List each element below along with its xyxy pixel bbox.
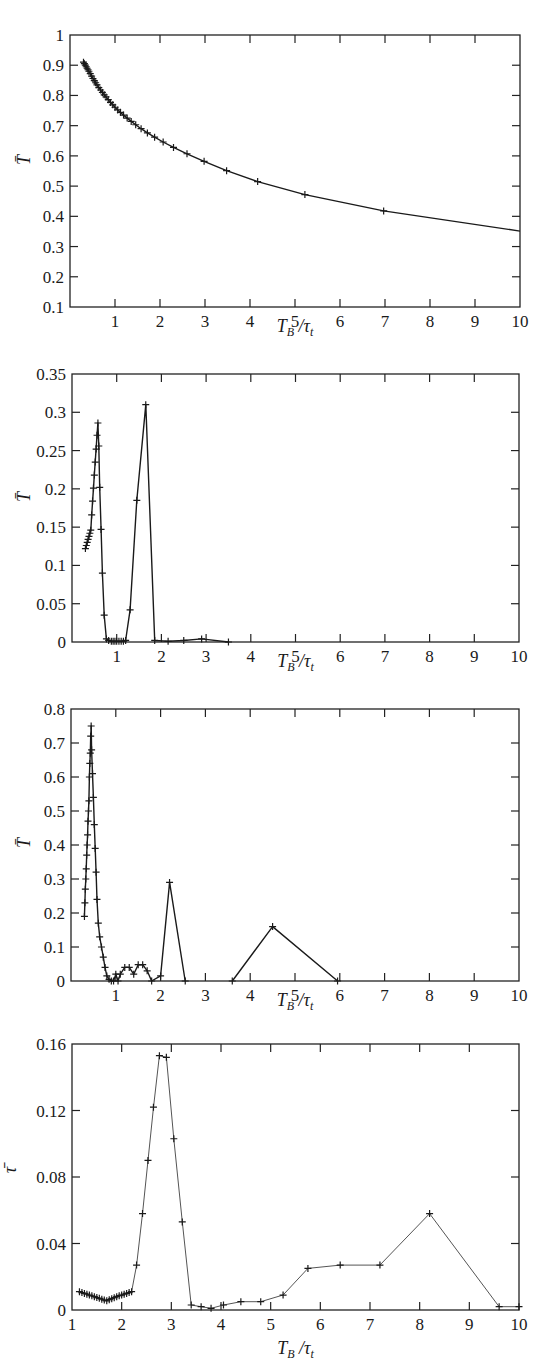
plus-marker bbox=[88, 746, 95, 753]
x-tick-label: 9 bbox=[470, 647, 479, 666]
plus-marker bbox=[86, 530, 93, 537]
x-tick-label: 6 bbox=[316, 1315, 325, 1334]
plot-frame bbox=[72, 374, 519, 642]
y-tick-label: 0.12 bbox=[36, 1102, 66, 1121]
plus-marker bbox=[87, 527, 94, 534]
chart-panel-1: 123456789100.10.20.30.40.50.60.70.80.91T… bbox=[14, 26, 529, 339]
y-tick-label: 0 bbox=[58, 1301, 67, 1320]
plus-marker bbox=[82, 545, 89, 552]
x-tick-label: 2 bbox=[157, 647, 166, 666]
y-tick-label: 0 bbox=[58, 633, 67, 652]
y-tick-label: 0.15 bbox=[36, 518, 66, 537]
y-tick-label: 0.16 bbox=[36, 1035, 66, 1054]
plus-marker bbox=[84, 831, 91, 838]
x-axis-label: TB /τt bbox=[277, 1338, 314, 1361]
y-tick-label: 0.2 bbox=[45, 480, 66, 499]
x-tick-label: 1 bbox=[112, 986, 121, 1005]
plus-marker bbox=[163, 1054, 170, 1061]
plus-marker bbox=[96, 484, 103, 491]
chart-panel-3: 1234567891000.10.20.30.40.50.60.70.8TB /… bbox=[14, 700, 528, 1013]
plus-marker bbox=[93, 869, 100, 876]
plus-marker bbox=[301, 191, 308, 198]
y-tick-label: 1 bbox=[56, 26, 65, 45]
plus-marker bbox=[99, 570, 106, 577]
x-tick-label: 2 bbox=[156, 986, 165, 1005]
y-tick-label: 0.6 bbox=[43, 147, 64, 166]
y-tick-label: 0.5 bbox=[43, 177, 64, 196]
plus-marker bbox=[151, 637, 158, 644]
plus-marker bbox=[126, 964, 133, 971]
data-line bbox=[85, 405, 228, 642]
plus-marker bbox=[87, 750, 94, 757]
plus-marker bbox=[170, 1135, 177, 1142]
y-tick-label: 0.05 bbox=[36, 595, 66, 614]
plus-marker bbox=[94, 432, 101, 439]
plus-marker bbox=[133, 497, 140, 504]
x-tick-label: 8 bbox=[425, 647, 434, 666]
plus-marker bbox=[160, 138, 167, 145]
x-tick-label: 9 bbox=[470, 986, 479, 1005]
x-tick-label: 6 bbox=[336, 647, 345, 666]
plus-marker bbox=[83, 852, 90, 859]
plus-marker bbox=[95, 920, 102, 927]
x-tick-label: 4 bbox=[247, 647, 256, 666]
y-axis-label: τ̄ bbox=[0, 1162, 20, 1173]
y-tick-label: 0.25 bbox=[36, 442, 66, 461]
plus-marker bbox=[89, 498, 96, 505]
y-tick-label: 0.8 bbox=[43, 86, 64, 105]
plus-marker bbox=[98, 944, 105, 951]
y-tick-label: 0.1 bbox=[45, 556, 66, 575]
x-tick-label: 9 bbox=[471, 312, 480, 331]
y-tick-label: 0.8 bbox=[44, 700, 65, 719]
plus-marker bbox=[82, 876, 89, 883]
y-tick-label: 0.1 bbox=[44, 938, 65, 957]
plus-marker bbox=[84, 539, 91, 546]
x-tick-label: 1 bbox=[68, 1315, 77, 1334]
data-line bbox=[84, 726, 185, 981]
x-tick-label: 6 bbox=[336, 986, 345, 1005]
x-tick-label: 8 bbox=[426, 312, 435, 331]
plus-marker bbox=[85, 533, 92, 540]
y-tick-label: 0.6 bbox=[44, 768, 65, 787]
plus-marker bbox=[85, 818, 92, 825]
x-axis-label: TB /τt bbox=[277, 990, 314, 1013]
plus-marker bbox=[201, 158, 208, 165]
plus-marker bbox=[85, 808, 92, 815]
y-tick-label: 0.4 bbox=[44, 836, 66, 855]
data-line bbox=[232, 927, 337, 981]
plus-marker bbox=[91, 821, 98, 828]
plus-marker bbox=[142, 401, 149, 408]
plus-marker bbox=[83, 542, 90, 549]
plus-marker bbox=[86, 774, 93, 781]
x-tick-label: 3 bbox=[201, 312, 210, 331]
plus-marker bbox=[208, 1305, 215, 1312]
x-tick-label: 8 bbox=[425, 986, 434, 1005]
plus-marker bbox=[337, 1262, 344, 1269]
x-tick-label: 3 bbox=[202, 647, 211, 666]
x-tick-label: 8 bbox=[415, 1315, 424, 1334]
plus-marker bbox=[180, 637, 187, 644]
plus-marker bbox=[90, 485, 97, 492]
plot-frame bbox=[70, 35, 520, 307]
x-tick-label: 9 bbox=[465, 1315, 474, 1334]
plus-marker bbox=[380, 207, 387, 214]
x-tick-label: 2 bbox=[156, 312, 165, 331]
y-tick-label: 0.08 bbox=[36, 1168, 66, 1187]
y-axis-label: T̄ bbox=[14, 490, 34, 502]
y-tick-label: 0.7 bbox=[43, 117, 65, 136]
plus-marker bbox=[85, 536, 92, 543]
plus-marker bbox=[81, 899, 88, 906]
y-tick-label: 0.4 bbox=[43, 207, 65, 226]
x-axis-label: TB /τt bbox=[277, 316, 314, 339]
plus-marker bbox=[223, 167, 230, 174]
plus-marker bbox=[139, 1210, 146, 1217]
data-line bbox=[84, 62, 521, 231]
x-tick-label: 7 bbox=[381, 647, 390, 666]
y-axis-label: T̄ bbox=[14, 836, 34, 848]
y-tick-label: 0.04 bbox=[36, 1235, 66, 1254]
chart-panel-4: 1234567891000.040.080.120.16TB /τtτ̄ bbox=[0, 1035, 528, 1361]
x-tick-label: 7 bbox=[380, 986, 389, 1005]
plus-marker bbox=[133, 1262, 140, 1269]
chart-panel-2: 1234567891000.050.10.150.20.250.30.35TB … bbox=[14, 365, 528, 674]
plus-marker bbox=[165, 638, 172, 645]
